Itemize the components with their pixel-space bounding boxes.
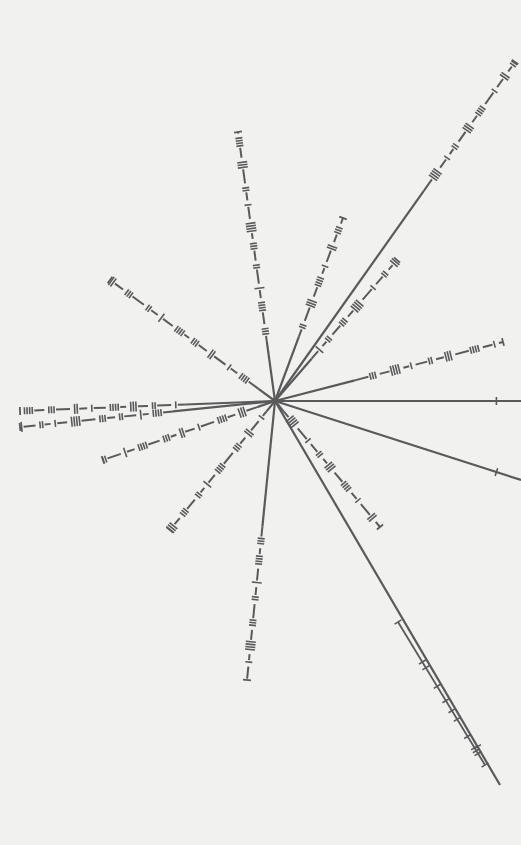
pulsar-line [234, 131, 275, 401]
pulsar-line [20, 401, 275, 415]
pulsar-map-diagram: Pulsar map [0, 0, 521, 845]
parallel-coded-segment [395, 620, 489, 767]
pulsar-line [108, 277, 275, 401]
pulsar-line [275, 397, 521, 405]
pulsar-line [275, 338, 504, 401]
pulsar-line [275, 401, 500, 785]
center-hub [272, 398, 278, 404]
pulsar-map-canvas [0, 0, 521, 845]
pulsar-line [243, 401, 275, 680]
pulsar-line [275, 401, 521, 480]
pulsar-line [275, 217, 347, 401]
pulsar-line [275, 257, 400, 401]
pulsar-line [275, 60, 518, 401]
pulsar-line [275, 401, 383, 530]
